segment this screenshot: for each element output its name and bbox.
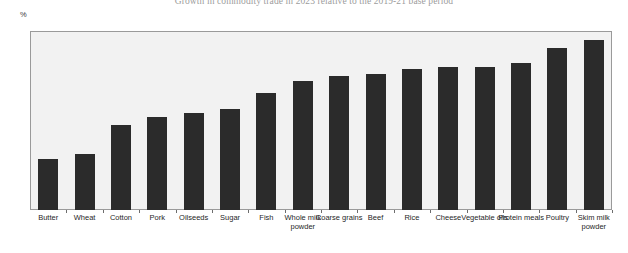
x-axis-tick-mark xyxy=(503,210,504,213)
x-axis-tick-mark xyxy=(539,210,540,213)
bar[interactable] xyxy=(547,48,567,210)
x-axis-tick-label: Skim milk powder xyxy=(568,213,620,231)
x-axis-tick-mark xyxy=(103,210,104,213)
x-axis-tick-mark xyxy=(430,210,431,213)
x-axis-tick-mark xyxy=(139,210,140,213)
bar[interactable] xyxy=(475,67,495,210)
chart-title: Growth in commodity trade in 2023 relati… xyxy=(0,0,628,6)
bars-layer xyxy=(30,31,612,210)
bar[interactable] xyxy=(511,63,531,210)
x-axis-tick-mark xyxy=(248,210,249,213)
bar[interactable] xyxy=(147,117,167,210)
bar[interactable] xyxy=(220,109,240,210)
x-axis-tick-mark xyxy=(321,210,322,213)
bar[interactable] xyxy=(38,159,58,210)
x-axis-tick-mark xyxy=(285,210,286,213)
x-axis-labels: ButterWheatCottonPorkOilseedsSugarFishWh… xyxy=(30,213,612,253)
x-axis-tick-mark xyxy=(467,210,468,213)
bar[interactable] xyxy=(293,81,313,210)
x-axis-tick-mark xyxy=(212,210,213,213)
x-axis-tick-mark xyxy=(576,210,577,213)
bar[interactable] xyxy=(184,113,204,210)
bar[interactable] xyxy=(111,125,131,210)
bar[interactable] xyxy=(402,69,422,210)
bar[interactable] xyxy=(329,76,349,211)
x-axis-tick-mark xyxy=(176,210,177,213)
bar[interactable] xyxy=(75,154,95,210)
bar[interactable] xyxy=(256,93,276,210)
x-axis-tick-mark xyxy=(66,210,67,213)
x-axis-tick-mark xyxy=(357,210,358,213)
x-axis-tick-mark xyxy=(612,210,613,213)
x-axis-tick-mark xyxy=(394,210,395,213)
bar[interactable] xyxy=(584,40,604,210)
bar[interactable] xyxy=(366,74,386,210)
bar[interactable] xyxy=(438,67,458,210)
